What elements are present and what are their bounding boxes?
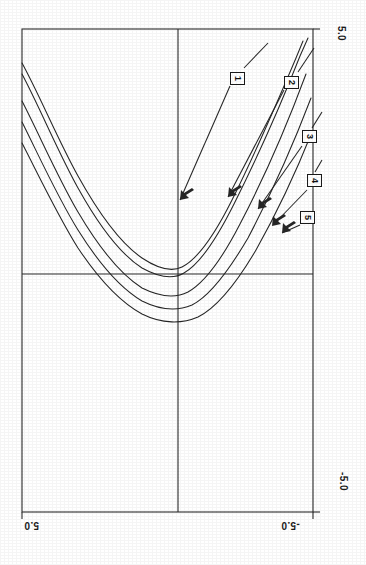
curve-2 xyxy=(22,38,308,277)
arrowhead-5 xyxy=(282,221,296,233)
axis-label-x-max: 5.0 xyxy=(336,26,347,41)
curve-1 xyxy=(22,41,303,270)
zero-axis-lines xyxy=(22,29,313,512)
leader-line-4 xyxy=(315,160,322,172)
curve-callout-5: 5 xyxy=(300,211,315,224)
curve-5 xyxy=(22,132,312,322)
axis-label-x-min: -5.0 xyxy=(281,520,300,531)
curve-callout-4-text: 4 xyxy=(310,178,319,183)
curve-callout-2-text: 2 xyxy=(287,80,296,85)
leader-line-1 xyxy=(244,43,268,68)
curve-callout-1-text: 1 xyxy=(233,76,242,81)
curve-callout-2: 2 xyxy=(284,76,299,89)
curve-4 xyxy=(22,98,311,309)
axis-label-y-max: 5.0 xyxy=(24,520,39,531)
plot-frame xyxy=(22,29,313,512)
leader-arrowheads xyxy=(180,185,296,233)
leader-line-3b xyxy=(258,146,302,209)
curve-callout-4: 4 xyxy=(307,174,322,187)
curve-callout-3-text: 3 xyxy=(305,134,314,139)
axis-label-y-min: -5.0 xyxy=(338,472,349,491)
arrowhead-1 xyxy=(180,188,194,200)
leader-lines xyxy=(180,43,322,233)
curve-callout-1: 1 xyxy=(230,72,245,85)
leader-line-2 xyxy=(298,48,314,72)
curve-callout-3: 3 xyxy=(302,130,317,143)
curve-callout-5-text: 5 xyxy=(303,215,312,220)
leader-line-1b xyxy=(180,86,230,200)
plot-figure xyxy=(0,0,366,565)
curve-3 xyxy=(22,74,306,296)
data-curves xyxy=(22,38,312,322)
